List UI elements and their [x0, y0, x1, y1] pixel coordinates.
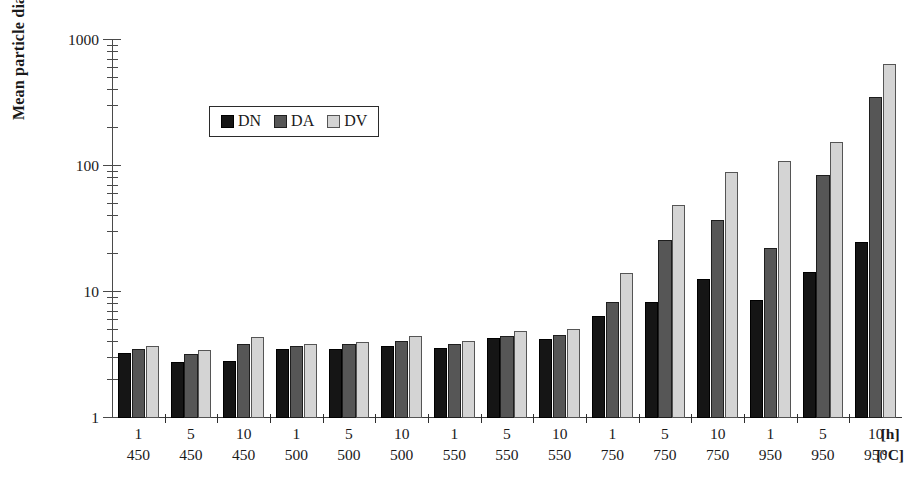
- bar-group: [223, 40, 264, 418]
- x-label-hours: 5: [165, 424, 218, 444]
- bar-dv: [251, 337, 264, 418]
- bar-group: [118, 40, 159, 418]
- bar-dv: [146, 346, 159, 418]
- x-label-temperature: 500: [270, 444, 323, 466]
- x-axis-group-tick: [428, 414, 429, 423]
- bar-dv: [356, 342, 369, 418]
- x-label-temperature: 550: [481, 444, 534, 466]
- x-label-hours: 1: [586, 424, 639, 444]
- bar-dv: [725, 172, 738, 418]
- x-axis-group-tick: [533, 414, 534, 423]
- bar-group: [750, 40, 791, 418]
- x-label-hours: 5: [797, 424, 850, 444]
- bar-dn: [592, 316, 605, 418]
- x-axis-label-column: 10950: [849, 424, 902, 466]
- bar-group: [697, 40, 738, 418]
- bar-dn: [539, 339, 552, 418]
- bar-da: [658, 240, 671, 418]
- legend-item-dn: DN: [221, 112, 261, 130]
- x-label-temperature: 950: [849, 444, 902, 466]
- bar-dn: [329, 349, 342, 418]
- x-axis-label-column: 5750: [639, 424, 692, 466]
- chart-figure: Mean particle diameter [nm] 1101001000 D…: [0, 0, 924, 484]
- x-axis-label-column: 5950: [797, 424, 850, 466]
- x-axis-group-tick: [217, 414, 218, 423]
- x-axis-label-column: 5450: [165, 424, 218, 466]
- x-label-temperature: 550: [428, 444, 481, 466]
- x-axis-label-column: 10450: [217, 424, 270, 466]
- x-axis-label-column: 1750: [586, 424, 639, 466]
- bar-dn: [223, 361, 236, 418]
- x-label-hours: 10: [375, 424, 428, 444]
- bar-dv: [409, 336, 422, 418]
- bar-dn: [434, 348, 447, 418]
- bar-group: [381, 40, 422, 418]
- x-label-hours: 5: [639, 424, 692, 444]
- x-axis-label-column: 10500: [375, 424, 428, 466]
- x-label-hours: 1: [112, 424, 165, 444]
- bar-da: [237, 344, 250, 418]
- x-label-hours: 10: [217, 424, 270, 444]
- bar-da: [711, 220, 724, 418]
- bar-dn: [276, 349, 289, 418]
- legend-label-dv: DV: [344, 112, 367, 130]
- legend-item-da: DA: [274, 112, 314, 130]
- x-label-hours: 10: [691, 424, 744, 444]
- bar-group: [171, 40, 212, 418]
- x-label-temperature: 550: [533, 444, 586, 466]
- x-label-temperature: 450: [112, 444, 165, 466]
- x-label-temperature: 500: [375, 444, 428, 466]
- x-axis-label-column: 1450: [112, 424, 165, 466]
- x-axis-label-column: 1500: [270, 424, 323, 466]
- bar-da: [553, 335, 566, 419]
- gray-square-icon: [274, 115, 287, 128]
- bar-da: [606, 302, 619, 418]
- x-axis-label-column: 5550: [481, 424, 534, 466]
- bar-group: [329, 40, 370, 418]
- bar-dn: [381, 346, 394, 418]
- bar-groups: [112, 40, 902, 418]
- x-axis-group-tick: [691, 414, 692, 423]
- x-label-hours: 5: [481, 424, 534, 444]
- light-gray-square-icon: [327, 115, 340, 128]
- x-label-hours: 10: [533, 424, 586, 444]
- bar-dn: [697, 279, 710, 419]
- legend-label-dn: DN: [238, 112, 261, 130]
- x-axis-group-tick: [375, 414, 376, 423]
- bar-dn: [487, 338, 500, 418]
- bar-da: [132, 349, 145, 418]
- bar-dv: [830, 142, 843, 418]
- bar-da: [764, 248, 777, 418]
- x-label-hours: 1: [428, 424, 481, 444]
- x-label-temperature: 950: [744, 444, 797, 466]
- x-label-hours: 10: [849, 424, 902, 444]
- bar-group: [434, 40, 475, 418]
- bar-dn: [750, 300, 763, 418]
- bar-dv: [514, 331, 527, 418]
- x-label-temperature: 750: [586, 444, 639, 466]
- legend-label-da: DA: [291, 112, 314, 130]
- bar-dv: [883, 64, 896, 418]
- y-axis-tick-label: 1000: [68, 31, 99, 49]
- plot-area: [112, 40, 902, 418]
- bar-dn: [645, 302, 658, 418]
- x-label-temperature: 750: [639, 444, 692, 466]
- bar-da: [342, 344, 355, 418]
- bar-group: [855, 40, 896, 418]
- x-axis-group-tick: [639, 414, 640, 423]
- x-axis-group-tick: [797, 414, 798, 423]
- y-axis-title: Mean particle diameter [nm]: [10, 0, 28, 120]
- bar-dn: [171, 362, 184, 418]
- x-label-hours: 1: [744, 424, 797, 444]
- bar-dv: [198, 350, 211, 418]
- bar-da: [816, 175, 829, 418]
- bar-dn: [803, 272, 816, 418]
- bar-dn: [855, 242, 868, 418]
- bar-dv: [567, 329, 580, 418]
- x-axis-label-column: 5500: [323, 424, 376, 466]
- legend: DN DA DV: [209, 106, 379, 137]
- black-square-icon: [221, 115, 234, 128]
- bar-group: [803, 40, 844, 418]
- bar-da: [290, 346, 303, 418]
- x-axis-group-tick: [849, 414, 850, 423]
